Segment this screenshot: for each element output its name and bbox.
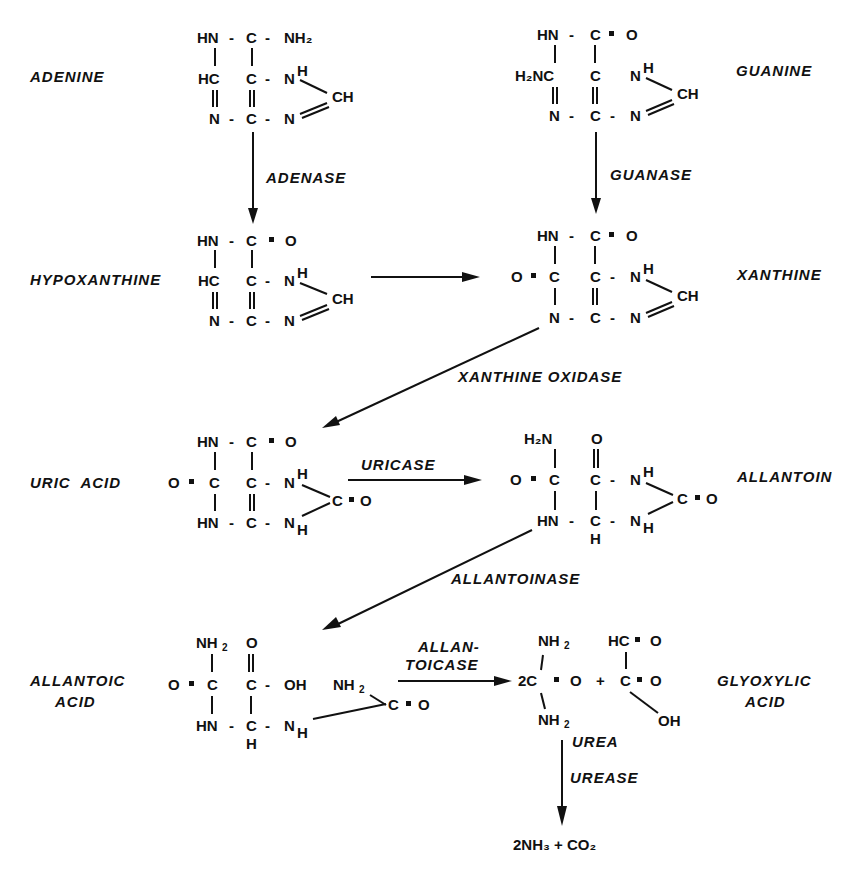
atom-label: H₂N bbox=[524, 430, 552, 447]
atom-label: C bbox=[246, 232, 257, 249]
atom-label: NH bbox=[196, 634, 218, 651]
atom-label: HN bbox=[197, 514, 219, 531]
atom-label: CH bbox=[332, 290, 354, 307]
bond-line bbox=[648, 502, 673, 514]
atom-label: N bbox=[630, 107, 641, 124]
bond-line bbox=[302, 485, 330, 497]
atom-label: C bbox=[590, 309, 601, 326]
double-bond-mark bbox=[609, 31, 614, 36]
atom-label: C bbox=[590, 107, 601, 124]
atom-label: O bbox=[626, 26, 638, 43]
atom-label: N bbox=[284, 717, 295, 734]
double-bond-mark bbox=[269, 237, 274, 242]
arrow-down-icon bbox=[248, 208, 258, 224]
arrow-right-icon bbox=[464, 475, 482, 485]
xanthine-oxidase-step: XANTHINE OXIDASE bbox=[322, 328, 622, 428]
double-bond-mark bbox=[189, 681, 194, 686]
atom-label: O bbox=[570, 672, 582, 689]
bond-line bbox=[541, 655, 543, 670]
atom-label: O bbox=[706, 490, 718, 507]
atom-label: N bbox=[284, 70, 295, 87]
atom-label: HN bbox=[197, 232, 219, 249]
atom-label: C bbox=[677, 490, 688, 507]
atom-label: C bbox=[207, 676, 218, 693]
atom-label: N bbox=[630, 471, 641, 488]
arrow-down-left-icon bbox=[322, 617, 341, 630]
uricase-label: URICASE bbox=[361, 456, 436, 473]
atom-label: - bbox=[265, 676, 270, 693]
atom-label: C bbox=[246, 474, 257, 491]
atom-label: O bbox=[168, 676, 180, 693]
adenine-label: ADENINE bbox=[29, 68, 105, 85]
atom-label: H bbox=[297, 521, 308, 538]
atom-label: C bbox=[209, 474, 220, 491]
atom-label: H bbox=[643, 463, 654, 480]
bond-line bbox=[541, 693, 545, 709]
atom-label: HN bbox=[197, 433, 219, 450]
purine-catabolism-diagram: ADENINE HN - C - NH₂ HC C - N H CH N - C… bbox=[0, 0, 865, 870]
atom-label: C bbox=[246, 29, 257, 46]
atom-label: N bbox=[630, 512, 641, 529]
atom-label: - bbox=[265, 474, 270, 491]
atom-label: OH bbox=[284, 676, 307, 693]
double-bond-mark bbox=[609, 232, 614, 237]
atom-label: C bbox=[332, 492, 343, 509]
atom-label: 2 bbox=[564, 719, 570, 730]
atom-label: C bbox=[246, 272, 257, 289]
atom-label: - bbox=[569, 227, 574, 244]
atom-label: HN bbox=[537, 227, 559, 244]
atom-label: HN bbox=[196, 717, 218, 734]
atom-label: N bbox=[630, 268, 641, 285]
atom-label: C bbox=[246, 433, 257, 450]
double-bond-mark bbox=[531, 476, 536, 481]
bond-line bbox=[630, 692, 658, 713]
atom-label: HN bbox=[197, 29, 219, 46]
allantoicase-label-line1: ALLAN- bbox=[417, 638, 480, 655]
atom-label: H₂NC bbox=[515, 67, 554, 84]
bond-line bbox=[646, 78, 672, 90]
hypoxanthine-structure: HYPOXANTHINE HN - C O HC C - N H CH N - … bbox=[30, 232, 354, 329]
atom-label: - bbox=[229, 717, 234, 734]
atom-label: - bbox=[265, 717, 270, 734]
atom-label: C bbox=[246, 676, 257, 693]
atom-label: H bbox=[297, 62, 308, 79]
atom-label: NH bbox=[538, 711, 560, 728]
atom-label: O bbox=[418, 696, 430, 713]
hypoxanthine-to-xanthine-step bbox=[371, 272, 480, 282]
atom-label: N bbox=[630, 309, 641, 326]
atom-label: - bbox=[610, 268, 615, 285]
bond-line bbox=[300, 283, 327, 294]
atom-label: O bbox=[285, 433, 297, 450]
arrow-down-icon bbox=[557, 806, 567, 826]
atom-label: C bbox=[549, 268, 560, 285]
allantoicase-label-line2: TOICASE bbox=[405, 656, 478, 673]
atom-label: O bbox=[511, 268, 523, 285]
urea-structure: NH 2 2C O + NH 2 UREA bbox=[518, 632, 619, 750]
glyoxylic-acid-label-line2: ACID bbox=[744, 693, 786, 710]
guanase-step: GUANASE bbox=[591, 132, 692, 214]
bond-line bbox=[646, 483, 673, 495]
atom-label: H bbox=[590, 530, 601, 547]
arrow-down-icon bbox=[591, 198, 601, 214]
bond-line bbox=[313, 704, 386, 719]
atom-label: C bbox=[246, 70, 257, 87]
guanase-label: GUANASE bbox=[610, 166, 692, 183]
atom-label: 2 bbox=[222, 642, 228, 653]
allantoinase-label: ALLANTOINASE bbox=[450, 570, 580, 587]
hypoxanthine-label: HYPOXANTHINE bbox=[30, 271, 161, 288]
atom-label: H bbox=[643, 59, 654, 76]
allantoic-acid-structure: ALLANTOIC ACID NH 2 O O C C - OH NH 2 C … bbox=[29, 634, 430, 752]
atom-label: O bbox=[650, 632, 662, 649]
atom-label: + bbox=[596, 672, 605, 689]
arrow-right-icon bbox=[494, 676, 512, 686]
atom-label: N bbox=[284, 474, 295, 491]
atom-label: - bbox=[610, 512, 615, 529]
atom-label: H bbox=[246, 735, 257, 752]
atom-label: O bbox=[626, 227, 638, 244]
atom-label: N bbox=[209, 312, 220, 329]
atom-label: - bbox=[229, 110, 234, 127]
atom-label: NH bbox=[333, 676, 355, 693]
uric-acid-structure: URIC ACID HN - C O O C C - N H C O HN - … bbox=[30, 433, 372, 538]
glyoxylic-acid-label-line1: GLYOXYLIC bbox=[717, 672, 812, 689]
atom-label: - bbox=[265, 110, 270, 127]
